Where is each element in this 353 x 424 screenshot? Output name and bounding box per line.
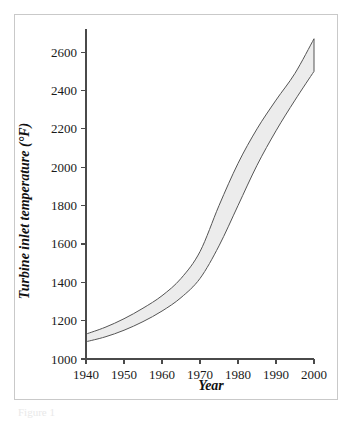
- figure-frame: 100012001400160018002000220024002600 194…: [14, 14, 338, 400]
- y-tick-label: 1200: [51, 313, 77, 328]
- x-tick-label: 1940: [73, 367, 99, 382]
- y-tick-label: 1400: [51, 275, 77, 290]
- y-tick-label: 2400: [51, 83, 77, 98]
- y-axis-title: Turbine inlet temperature (°F): [17, 123, 33, 300]
- x-tick-label: 1950: [111, 367, 137, 382]
- y-tick-label: 2000: [51, 160, 77, 175]
- y-tick-label: 2600: [51, 45, 77, 60]
- y-axis-tick-labels: 100012001400160018002000220024002600: [51, 45, 77, 367]
- x-axis-title: Year: [198, 378, 224, 393]
- temperature-band-area: [86, 39, 314, 342]
- y-tick-label: 1600: [51, 236, 77, 251]
- x-tick-label: 1990: [263, 367, 289, 382]
- x-tick-label: 1980: [225, 367, 251, 382]
- x-tick-label: 2000: [301, 367, 327, 382]
- y-tick-label: 2200: [51, 121, 77, 136]
- x-tick-label: 1960: [149, 367, 175, 382]
- caption-fragment: Figure 1: [18, 406, 138, 418]
- turbine-inlet-temperature-chart: 100012001400160018002000220024002600 194…: [15, 15, 337, 399]
- y-tick-label: 1800: [51, 198, 77, 213]
- y-tick-label: 1000: [51, 352, 77, 367]
- figure-page: 100012001400160018002000220024002600 194…: [0, 0, 353, 424]
